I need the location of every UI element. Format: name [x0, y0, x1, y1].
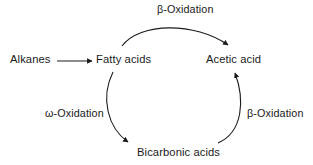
edge-label-beta-oxidation-top: β-Oxidation — [157, 3, 214, 16]
metabolic-pathway-diagram: Alkanes Fatty acids Acetic acid Bicarbon… — [0, 0, 313, 165]
edge-label-beta-oxidation-right: β-Oxidation — [247, 107, 304, 120]
node-label-fatty-acids: Fatty acids — [96, 53, 151, 66]
node-label-alkanes: Alkanes — [10, 53, 51, 66]
edge-label-omega-oxidation-left: ω-Oxidation — [45, 107, 104, 120]
node-label-bicarbonic-acids: Bicarbonic acids — [137, 146, 220, 159]
pathway-arrows — [0, 0, 313, 165]
arrow-bicarbonic-acids-to-acetic-acid — [218, 73, 241, 143]
node-label-acetic-acid: Acetic acid — [206, 53, 261, 66]
arrow-fatty-acids-to-bicarbonic-acids — [107, 72, 128, 142]
arrow-fatty-acids-to-acetic-acid — [122, 28, 228, 46]
